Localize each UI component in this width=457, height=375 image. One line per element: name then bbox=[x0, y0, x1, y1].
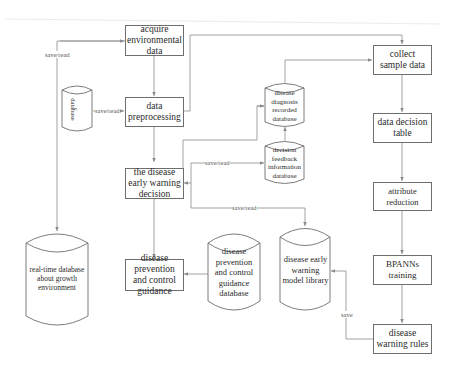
save-read-label-feedback: save/read bbox=[205, 159, 230, 166]
small-database-icon: database c bbox=[62, 95, 92, 125]
save-read-label-library: save/read bbox=[232, 204, 257, 211]
diagnosis-database-label: disease diagnosis recorded database bbox=[266, 88, 303, 124]
early-warning-decision-box: the disease early warning decision bbox=[125, 168, 184, 199]
data-preprocessing-box: data preprocessing bbox=[125, 97, 184, 127]
data-decision-table-box: data decision table bbox=[373, 113, 432, 143]
disease-warning-rules-box: disease warning rules bbox=[373, 324, 432, 354]
guidance-database-label: disease prevention and control guidance … bbox=[209, 245, 259, 300]
save-read-label-left: save/read bbox=[45, 51, 70, 58]
bpanns-training-box: BPANNs training bbox=[373, 255, 432, 285]
collect-sample-data-box: collect sample data bbox=[373, 45, 432, 75]
acquire-environmental-data-box: acquire environmental data bbox=[125, 25, 184, 56]
prevention-guidance-box: disease prevention and control guidance bbox=[125, 259, 184, 291]
realtime-database-label: real-time database about growth environm… bbox=[28, 264, 86, 292]
small-database-label-2: c bbox=[73, 108, 80, 111]
save-label-rules: save bbox=[341, 311, 353, 318]
model-library-label: disease early warning model library bbox=[281, 250, 330, 290]
attribute-reduction-box: attribute reduction bbox=[373, 182, 432, 211]
feedback-database-label: decision feedback information database bbox=[266, 145, 303, 181]
save-read-label-small-db: save/read bbox=[95, 107, 120, 114]
